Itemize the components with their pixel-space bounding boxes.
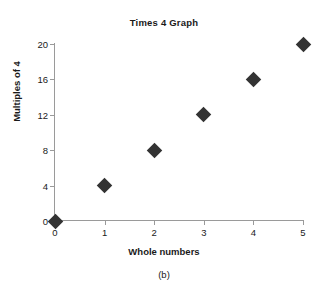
y-tick-mark <box>50 115 54 116</box>
x-tick-label: 4 <box>243 227 263 238</box>
x-tick-label: 2 <box>144 227 164 238</box>
x-axis-label: Whole numbers <box>0 246 328 257</box>
y-tick-mark <box>50 150 54 151</box>
x-tick-mark <box>154 221 155 225</box>
x-tick-mark <box>105 221 106 225</box>
figure: Times 4 Graph 048121620 012345 Multiples… <box>0 0 328 295</box>
y-tick-label: 0 <box>14 216 48 227</box>
chart-title: Times 4 Graph <box>0 17 328 28</box>
x-tick-mark <box>303 221 304 225</box>
y-tick-label: 4 <box>14 180 48 191</box>
plot-area <box>55 44 303 221</box>
x-tick-label: 5 <box>293 227 313 238</box>
y-tick-mark <box>50 186 54 187</box>
x-tick-label: 1 <box>95 227 115 238</box>
y-axis-label: Multiples of 4 <box>11 32 22 152</box>
x-tick-mark <box>204 221 205 225</box>
x-tick-mark <box>253 221 254 225</box>
figure-caption: (b) <box>0 269 328 280</box>
x-tick-label: 3 <box>194 227 214 238</box>
y-tick-mark <box>50 44 54 45</box>
y-tick-mark <box>50 79 54 80</box>
